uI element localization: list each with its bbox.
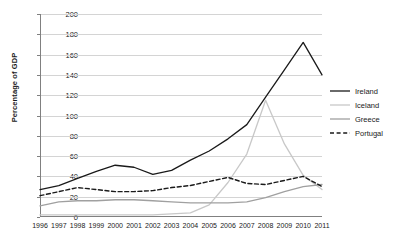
x-axis-tick-label: 2011: [311, 222, 333, 229]
legend-label: Ireland: [355, 87, 378, 96]
series-lines: [40, 14, 322, 217]
legend-label: Iceland: [355, 101, 379, 110]
y-axis-tick-mark: [37, 217, 40, 218]
line-chart: Percentage of GDP 0204060801001201401601…: [0, 0, 402, 243]
legend-label: Greece: [355, 115, 380, 124]
legend-swatch-ireland-icon: [330, 87, 350, 95]
legend-swatch-greece-icon: [330, 115, 350, 123]
legend-item-ireland[interactable]: Ireland: [330, 84, 383, 98]
series-line-ireland: [40, 42, 322, 189]
legend-swatch-portugal-icon: [330, 129, 350, 137]
legend-item-portugal[interactable]: Portugal: [330, 126, 383, 140]
legend-item-iceland[interactable]: Iceland: [330, 98, 383, 112]
plot-area: [40, 14, 322, 217]
legend-item-greece[interactable]: Greece: [330, 112, 383, 126]
y-axis-title: Percentage of GDP: [10, 40, 19, 136]
legend-swatch-iceland-icon: [330, 101, 350, 109]
legend-label: Portugal: [355, 129, 383, 138]
series-line-iceland: [40, 100, 322, 215]
chart-legend: IrelandIcelandGreecePortugal: [330, 84, 383, 140]
